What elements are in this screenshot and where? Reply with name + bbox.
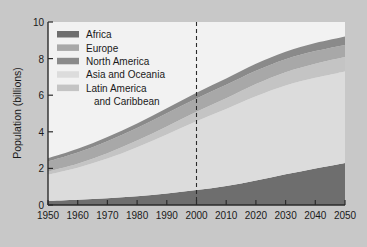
x-tick-label-2010: 2010 [215,210,238,221]
y-tick-label-4: 4 [38,127,44,138]
x-tick-label-1950: 1950 [37,210,60,221]
x-tick-label-2030: 2030 [274,210,297,221]
legend-swatch-europe [57,44,79,51]
population-projection-chart: 10 8 6 4 2 0 1950 1960 1970 1980 1990 20… [0,0,367,247]
legend-swatch-north-america [57,58,79,65]
x-tick-label-1970: 1970 [96,210,119,221]
legend-label-and-caribbean: and Caribbean [94,96,160,107]
legend-swatch-latin-america [57,85,79,92]
legend-label-latin-america: Latin America [86,83,147,94]
y-axis-title: Population (billions) [11,67,23,159]
legend-label-asia-and-oceania: Asia and Oceania [86,69,165,80]
x-tick-label-2020: 2020 [245,210,268,221]
x-tick-label-1990: 1990 [156,210,179,221]
x-tick-label-2000: 2000 [185,210,208,221]
legend-swatch-africa [57,31,79,38]
legend-label-europe: Europe [86,43,119,54]
legend-label-africa: Africa [86,29,112,40]
legend-swatch-asia-and-oceania [57,71,79,78]
y-tick-label-8: 8 [38,54,44,65]
x-tick-label-1960: 1960 [67,210,90,221]
x-tick-label-2040: 2040 [304,210,327,221]
x-tick-label-2050: 2050 [334,210,357,221]
legend-label-north-america: North America [86,56,150,67]
x-tick-label-1980: 1980 [126,210,149,221]
y-tick-label-6: 6 [38,90,44,101]
y-tick-label-2: 2 [38,163,44,174]
y-tick-label-10: 10 [33,17,45,28]
